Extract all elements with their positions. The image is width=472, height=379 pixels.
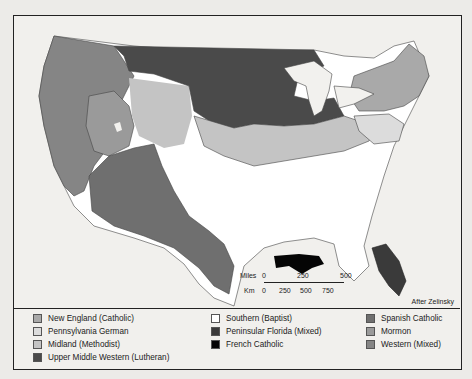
legend-item-western: Western (Mixed) bbox=[366, 340, 441, 349]
legend-item-french-catholic: French Catholic bbox=[211, 340, 283, 349]
legend-item-spanish-catholic: Spanish Catholic bbox=[366, 314, 442, 323]
legend-item-new-england: New England (Catholic) bbox=[33, 314, 134, 323]
swatch-southern bbox=[211, 314, 220, 323]
swatch-french-catholic bbox=[211, 340, 220, 349]
map-figure: Miles 0 250 500 Km 0 250 500 750 After Z… bbox=[13, 15, 462, 370]
swatch-upper-midwest bbox=[33, 353, 42, 362]
map-area: Miles 0 250 500 Km 0 250 500 750 After Z… bbox=[14, 16, 460, 309]
scale-km-label: Km bbox=[244, 287, 255, 294]
us-religious-regions-map bbox=[14, 16, 460, 308]
legend-item-peninsular-florida: Peninsular Florida (Mixed) bbox=[211, 327, 322, 336]
scale-line bbox=[264, 282, 344, 283]
region-french-catholic bbox=[274, 254, 324, 274]
legend-item-midland: Midland (Methodist) bbox=[33, 340, 120, 349]
scale-miles-label: Miles bbox=[240, 272, 256, 279]
swatch-western bbox=[366, 340, 375, 349]
swatch-new-england bbox=[33, 314, 42, 323]
swatch-peninsular-florida bbox=[211, 327, 220, 336]
legend-item-upper-midwest: Upper Middle Western (Lutheran) bbox=[33, 353, 169, 362]
swatch-mormon bbox=[366, 327, 375, 336]
region-peninsular-florida bbox=[372, 244, 406, 296]
map-credit: After Zelinsky bbox=[412, 298, 454, 305]
legend-item-pennsylvania-german: Pennsylvania German bbox=[33, 327, 129, 336]
legend: New England (Catholic) Pennsylvania Germ… bbox=[14, 309, 460, 369]
swatch-spanish-catholic bbox=[366, 314, 375, 323]
swatch-midland bbox=[33, 340, 42, 349]
legend-item-mormon: Mormon bbox=[366, 327, 411, 336]
swatch-pennsylvania-german bbox=[33, 327, 42, 336]
legend-item-southern: Southern (Baptist) bbox=[211, 314, 292, 323]
